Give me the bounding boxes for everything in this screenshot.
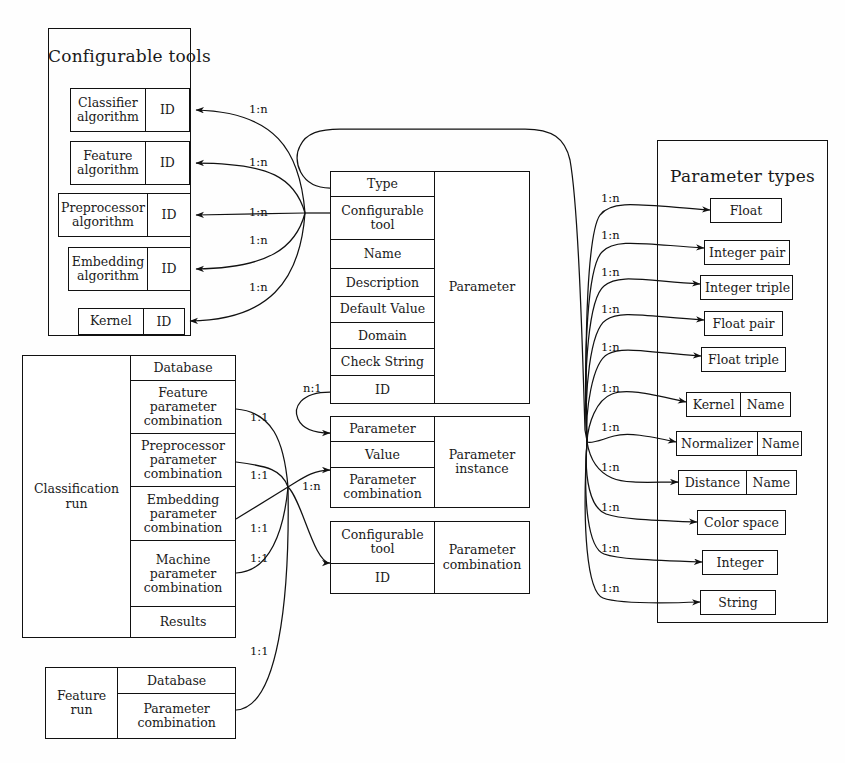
entity-parameter-instance[interactable]: Parameter Value Parameter combination Pa… bbox=[330, 416, 530, 508]
type-kernel[interactable]: Kernel Name bbox=[686, 392, 791, 417]
type-label: Integer pair bbox=[705, 241, 789, 264]
type-label: Float bbox=[711, 199, 781, 222]
cardinality-label: 1:1 bbox=[250, 521, 269, 535]
cardinality-label: 1:n bbox=[601, 541, 620, 555]
entity-name: Feature run bbox=[46, 668, 117, 738]
attr-id: ID bbox=[331, 376, 434, 403]
cardinality-label: 1:1 bbox=[250, 410, 269, 424]
type-string[interactable]: String bbox=[700, 590, 776, 615]
attr-configurable-tool: Configurable tool bbox=[331, 197, 434, 241]
entity-preprocessor-algorithm[interactable]: Preprocessor algorithm ID bbox=[58, 193, 191, 237]
entity-name: Parameter instance bbox=[434, 417, 529, 507]
type-label: Kernel bbox=[687, 393, 740, 416]
entity-name: Preprocessor algorithm bbox=[59, 194, 147, 236]
attr-machine-parameter-combination: Machine parameter combination bbox=[131, 541, 235, 607]
entity-name: Kernel bbox=[79, 309, 143, 334]
type-label: Distance bbox=[679, 471, 746, 494]
cardinality-label: 1:n bbox=[601, 500, 620, 514]
cardinality-label: 1:n bbox=[249, 205, 268, 219]
type-label: Normalizer bbox=[677, 432, 757, 455]
attr-id: ID bbox=[331, 564, 434, 593]
type-normalizer[interactable]: Normalizer Name bbox=[676, 431, 802, 456]
cardinality-label: 1:n bbox=[302, 479, 321, 493]
cardinality-label: 1:n bbox=[601, 381, 620, 395]
type-integer[interactable]: Integer bbox=[702, 550, 778, 575]
cardinality-label: 1:n bbox=[601, 581, 620, 595]
attr-database: Database bbox=[131, 356, 235, 381]
cardinality-label: 1:n bbox=[249, 280, 268, 294]
cardinality-label: 1:n bbox=[249, 102, 268, 116]
type-integer-pair[interactable]: Integer pair bbox=[704, 240, 790, 265]
attr-type: Type bbox=[331, 172, 434, 197]
type-label: Color space bbox=[698, 511, 785, 534]
cardinality-label: 1:1 bbox=[250, 551, 269, 565]
entity-parameter[interactable]: Type Configurable tool Name Description … bbox=[330, 171, 530, 404]
cardinality-label: n:1 bbox=[303, 381, 322, 395]
attr-parameter-combination: Parameter combination bbox=[331, 468, 434, 507]
attr-id: ID bbox=[144, 309, 184, 334]
attr-embedding-parameter-combination: Embedding parameter combination bbox=[131, 487, 235, 541]
attr-name: Name bbox=[331, 240, 434, 269]
type-float[interactable]: Float bbox=[710, 198, 782, 223]
entity-parameter-combination[interactable]: Configurable tool ID Parameter combinati… bbox=[330, 521, 530, 594]
entity-classification-run[interactable]: Classification run Database Feature para… bbox=[22, 355, 236, 638]
entity-name: Classifier algorithm bbox=[71, 89, 145, 131]
attr-check-string: Check String bbox=[331, 349, 434, 376]
type-label: Integer triple bbox=[701, 276, 794, 299]
type-color-space[interactable]: Color space bbox=[697, 510, 786, 535]
entity-name: Feature algorithm bbox=[71, 142, 145, 184]
type-integer-triple[interactable]: Integer triple bbox=[700, 275, 793, 300]
attr-database: Database bbox=[118, 668, 235, 694]
type-label: Float triple bbox=[702, 348, 785, 371]
entity-feature-algorithm[interactable]: Feature algorithm ID bbox=[70, 141, 190, 185]
parameter-types-title: Parameter types bbox=[657, 166, 828, 186]
attr-id: ID bbox=[146, 142, 189, 184]
attr-id: ID bbox=[148, 248, 190, 290]
type-sublabel: Name bbox=[757, 432, 804, 455]
cardinality-label: 1:n bbox=[249, 233, 268, 247]
cardinality-label: 1:1 bbox=[250, 644, 269, 658]
type-distance[interactable]: Distance Name bbox=[678, 470, 797, 495]
attr-domain: Domain bbox=[331, 323, 434, 350]
attr-id: ID bbox=[146, 89, 189, 131]
entity-feature-run[interactable]: Feature run Database Parameter combinati… bbox=[45, 667, 236, 739]
attr-description: Description bbox=[331, 269, 434, 297]
type-label: Integer bbox=[703, 551, 777, 574]
type-label: Float pair bbox=[705, 312, 782, 335]
attr-value: Value bbox=[331, 442, 434, 467]
entity-classifier-algorithm[interactable]: Classifier algorithm ID bbox=[70, 88, 190, 132]
cardinality-label: 1:n bbox=[601, 420, 620, 434]
cardinality-label: 1:n bbox=[249, 155, 268, 169]
attr-parameter-combination: Parameter combination bbox=[118, 694, 235, 738]
type-label: String bbox=[701, 591, 775, 614]
attr-parameter: Parameter bbox=[331, 417, 434, 442]
entity-name: Parameter bbox=[434, 172, 529, 403]
diagram-canvas: Configurable tools Classifier algorithm … bbox=[0, 0, 845, 763]
cardinality-label: 1:n bbox=[601, 340, 620, 354]
cardinality-label: 1:n bbox=[601, 460, 620, 474]
entity-name: Embedding algorithm bbox=[69, 248, 147, 290]
entity-name: Classification run bbox=[23, 356, 130, 637]
attr-preprocessor-parameter-combination: Preprocessor parameter combination bbox=[131, 434, 235, 487]
cardinality-label: 1:n bbox=[601, 265, 620, 279]
attr-default-value: Default Value bbox=[331, 297, 434, 323]
configurable-tools-title: Configurable tools bbox=[48, 46, 191, 66]
cardinality-label: 1:n bbox=[601, 228, 620, 242]
type-sublabel: Name bbox=[746, 471, 796, 494]
cardinality-label: 1:n bbox=[601, 302, 620, 316]
attr-configurable-tool: Configurable tool bbox=[331, 522, 434, 564]
entity-kernel-tool[interactable]: Kernel ID bbox=[78, 308, 185, 335]
attr-feature-parameter-combination: Feature parameter combination bbox=[131, 381, 235, 434]
attr-results: Results bbox=[131, 607, 235, 637]
cardinality-label: 1:n bbox=[601, 191, 620, 205]
type-sublabel: Name bbox=[740, 393, 790, 416]
type-float-triple[interactable]: Float triple bbox=[701, 347, 786, 372]
cardinality-label: 1:1 bbox=[250, 468, 269, 482]
attr-id: ID bbox=[148, 194, 190, 236]
entity-embedding-algorithm[interactable]: Embedding algorithm ID bbox=[68, 247, 191, 291]
type-float-pair[interactable]: Float pair bbox=[704, 311, 783, 336]
entity-name: Parameter combination bbox=[434, 522, 529, 593]
